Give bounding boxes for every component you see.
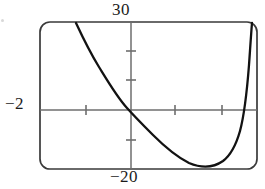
graph-screenshot: 30 −20 −2 [0,0,265,189]
plot-viewport [39,21,258,170]
scan-artifact [1,19,4,22]
viewport-border [40,22,257,169]
y-min-label: −20 [110,168,138,185]
x-min-label: −2 [5,95,24,112]
plot-canvas [39,21,258,170]
y-max-label: 30 [112,1,130,18]
